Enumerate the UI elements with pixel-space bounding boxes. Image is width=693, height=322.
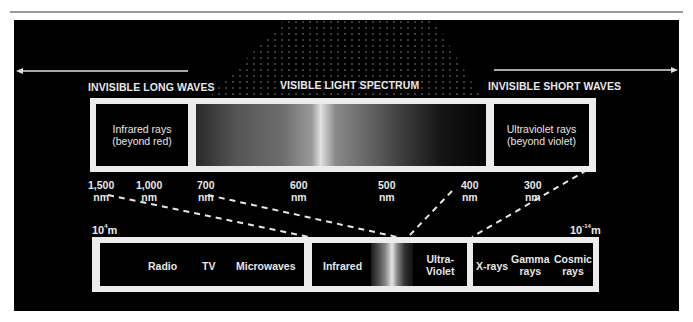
label-invisible-long-waves: INVISIBLE LONG WAVES [88, 81, 215, 93]
label-gamma-rays: Gammarays [511, 253, 550, 277]
ultraviolet-rays-sublabel: (beyond violet) [507, 135, 576, 147]
tick-600nm: 600nm [290, 179, 308, 203]
label-microwaves: Microwaves [236, 260, 296, 272]
tick-300nm: 300nm [524, 179, 542, 203]
infrared-rays-label: Infrared rays [112, 123, 172, 135]
label-ultraviolet: Ultra-Violet [426, 253, 454, 277]
tick-1500nm: 1,500nm [88, 179, 114, 203]
tick-700nm: 700nm [197, 179, 215, 203]
label-x-rays: X-rays [476, 260, 508, 272]
visible-spectrum-gradient [196, 104, 486, 166]
label-radio: Radio [148, 260, 177, 272]
dashed-connectors [108, 170, 587, 237]
ultraviolet-rays-label: Ultraviolet rays [507, 123, 576, 135]
arrow-right-icon [671, 67, 678, 73]
label-cosmic-rays: Cosmicrays [554, 253, 592, 277]
scale-right-label: 10-14m [570, 223, 601, 236]
spectrum-panel: INVISIBLE LONG WAVES VISIBLE LIGHT SPECT… [14, 20, 679, 311]
label-tv: TV [202, 260, 215, 272]
top-rule [10, 11, 683, 13]
tick-400nm: 400nm [461, 179, 479, 203]
ultraviolet-rays-box: Ultraviolet rays (beyond violet) [494, 104, 589, 166]
scale-left-label: 104m [92, 223, 117, 236]
label-infrared: Infrared [323, 260, 362, 272]
infrared-rays-box: Infrared rays (beyond red) [96, 104, 188, 166]
infrared-rays-sublabel: (beyond red) [112, 135, 172, 147]
tick-500nm: 500nm [378, 179, 396, 203]
label-visible-light-spectrum: VISIBLE LIGHT SPECTRUM [280, 79, 419, 91]
label-invisible-short-waves: INVISIBLE SHORT WAVES [488, 80, 621, 92]
arrow-left-icon [16, 68, 23, 74]
visible-mini-gradient [371, 243, 413, 286]
tick-1000nm: 1,000nm [136, 179, 162, 203]
